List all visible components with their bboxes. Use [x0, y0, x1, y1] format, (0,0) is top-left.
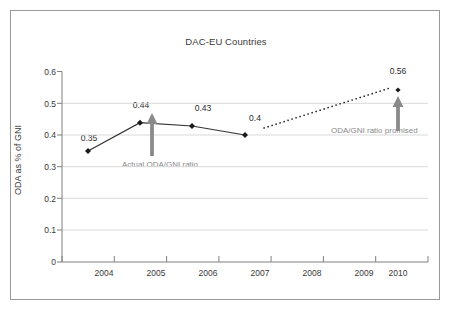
y-axis	[57, 72, 62, 263]
plot-graphics	[0, 0, 452, 314]
series-actual-line	[88, 123, 245, 151]
x-axis	[62, 256, 428, 262]
series-promised-marker	[395, 88, 400, 93]
annotation-arrow-promised	[393, 96, 404, 131]
gridlines	[62, 103, 428, 230]
chart-figure: DAC-EU Countries ODA as % of GNI 0.6 0.5…	[0, 0, 452, 314]
series-promised-dotted-line	[264, 88, 390, 128]
